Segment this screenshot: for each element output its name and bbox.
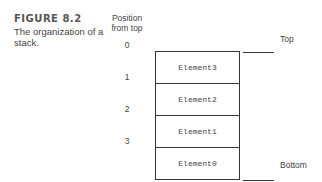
position-header: Position from top	[106, 13, 148, 33]
position-3: 3	[117, 136, 137, 146]
position-0: 0	[117, 40, 137, 50]
stack-element: Element3	[156, 52, 239, 83]
figure-caption: The organization of a stack.	[14, 26, 104, 48]
position-2: 2	[117, 104, 137, 114]
bottom-marker-line	[243, 180, 274, 181]
stack-diagram: Element3 Element2 Element1 Element0	[155, 51, 240, 180]
figure-label: FIGURE 8.2	[14, 13, 82, 24]
bottom-label: Bottom	[280, 160, 307, 170]
stack-element: Element0	[156, 147, 239, 179]
stack-element: Element2	[156, 83, 239, 115]
stack-element: Element1	[156, 115, 239, 147]
top-marker-line	[243, 52, 274, 53]
top-label: Top	[280, 34, 294, 44]
position-1: 1	[117, 72, 137, 82]
